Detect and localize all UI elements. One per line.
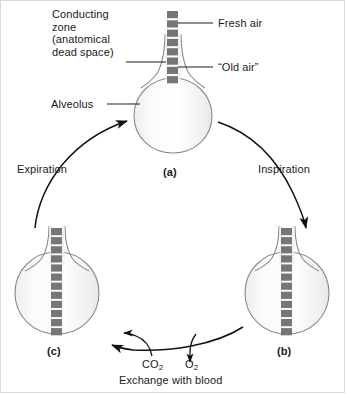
label-old-air: “Old air” [218,61,259,74]
label-o2: O2 [185,358,198,373]
label-co2: CO2 [142,358,163,373]
label-fresh-air: Fresh air [218,17,262,30]
panel-label-c: (c) [47,345,61,358]
panel-label-b: (b) [277,345,291,358]
label-conducting-zone: Conducting zone (anatomical dead space) [52,8,114,58]
arrow-co2 [124,333,152,356]
panel-label-a: (a) [163,166,177,179]
label-co2-subscript: 2 [159,363,164,372]
label-exchange-with-blood: Exchange with blood [119,374,222,387]
diagram-graphics [0,0,346,394]
label-expiration: Expiration [17,163,67,176]
label-o2-text: O [185,358,194,370]
label-inspiration: Inspiration [258,163,310,176]
arrow-b-to-c [112,327,243,350]
label-co2-text: CO [142,358,159,370]
label-alveolus: Alveolus [51,98,93,111]
alveolar-ventilation-diagram: Conducting zone (anatomical dead space) … [0,0,346,394]
label-o2-subscript: 2 [194,363,199,372]
